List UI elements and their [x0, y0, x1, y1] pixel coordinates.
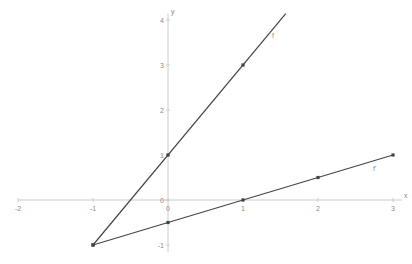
y-tick-label: 0	[160, 197, 164, 204]
data-point	[166, 153, 169, 156]
y-tick-label: 1	[160, 152, 164, 159]
label-f: f	[272, 32, 274, 39]
data-point	[166, 221, 169, 224]
x-tick-label: -2	[15, 205, 21, 212]
y-tick-label: 2	[160, 107, 164, 114]
data-point	[91, 243, 94, 246]
x-tick-label: -1	[90, 205, 96, 212]
y-tick-label: 3	[160, 62, 164, 69]
x-axis-label: x	[404, 192, 408, 199]
y-tick-label: 4	[160, 17, 164, 24]
data-point	[391, 153, 394, 156]
label-f-prime: f'	[373, 165, 376, 172]
y-axis-label: y	[171, 8, 175, 16]
data-point	[241, 198, 244, 201]
x-tick-label: 1	[241, 205, 245, 212]
data-point	[241, 63, 244, 66]
line-f	[93, 14, 286, 245]
x-tick-label: 3	[391, 205, 395, 212]
x-tick-label: 0	[166, 205, 170, 212]
function-graph: xy-2-11230-101234ff'	[0, 0, 412, 264]
y-tick-label: -1	[158, 242, 164, 249]
x-tick-label: 2	[316, 205, 320, 212]
data-point	[316, 176, 319, 179]
